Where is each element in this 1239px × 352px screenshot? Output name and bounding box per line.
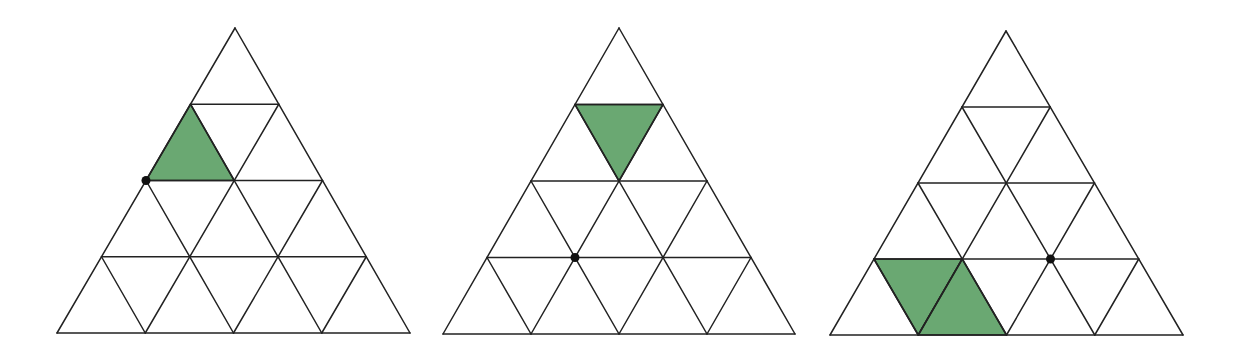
triangle-grid-diagram — [0, 0, 1239, 352]
marker-dot — [1046, 255, 1055, 264]
shaded-cell — [146, 104, 234, 180]
triangle-panel-3 — [830, 31, 1183, 335]
triangle-panel-2 — [443, 28, 795, 334]
grid-line-diagonal — [145, 104, 279, 333]
marker-dot — [142, 176, 151, 185]
marker-dot — [571, 253, 580, 262]
grid-line-diagonal — [102, 257, 146, 333]
grid-line-diagonal — [1095, 259, 1139, 335]
shaded-cell — [575, 105, 663, 182]
grid-line-diagonal — [322, 257, 367, 333]
grid-line-diagonal — [487, 258, 531, 335]
triangle-panel-1 — [57, 28, 410, 333]
grid-line-diagonal — [707, 258, 751, 335]
grid-line-diagonal — [191, 104, 322, 333]
